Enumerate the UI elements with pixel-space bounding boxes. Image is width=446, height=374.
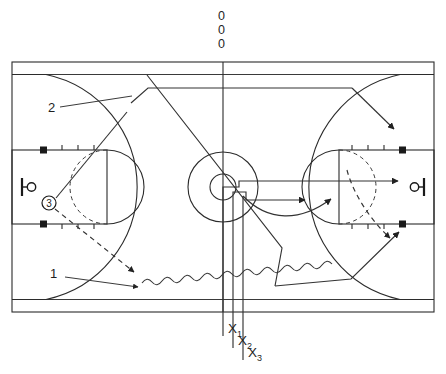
route-two-label: 2 [48,100,55,115]
hoop-left [27,183,35,191]
route-three-dashed [55,209,134,272]
route-x3 [243,196,331,360]
x1-base: X [228,321,237,336]
play-diagram-root: 3 0 0 0 [0,0,446,374]
route-three-solid [56,112,127,198]
player-three-marker: 3 [42,196,56,210]
label-two-group: 2 [48,96,132,115]
lane-block-right-top [399,147,406,154]
zero-label-top: 0 [218,9,225,23]
left-half-court [12,75,144,300]
hoop-right [410,183,418,191]
route-one-label: 1 [50,266,57,281]
player-three-label: 3 [46,198,52,209]
dribble-wavy-path [142,261,332,285]
lane-block-right-bottom [399,221,406,228]
x3-subscript: 3 [257,353,262,363]
zero-label-bottom: 0 [218,37,225,51]
zero-labels: 0 0 0 [218,9,225,51]
x3-base: X [248,345,257,360]
lane-block-left-bottom [40,221,47,228]
route-zero-top [131,88,394,129]
zero-label-mid: 0 [218,23,225,37]
defense-label-x3: X 3 [248,345,262,363]
lane-block-left-top [40,147,47,154]
x2-base: X [238,333,247,348]
basketball-court-diagram: 3 0 0 0 [0,0,446,374]
